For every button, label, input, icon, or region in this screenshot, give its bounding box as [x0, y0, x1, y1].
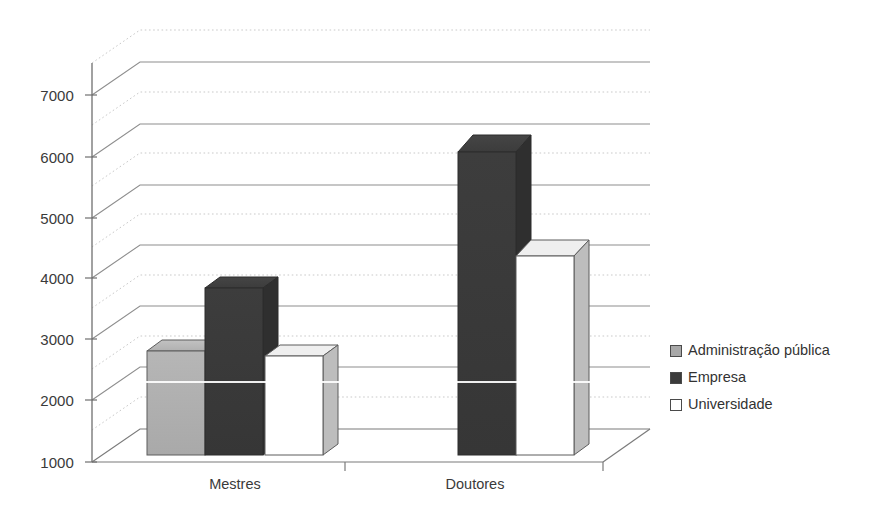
- legend-item-administracao-publica: Administração pública: [670, 337, 885, 364]
- y-tick-label: 3000: [12, 332, 74, 347]
- legend-item-empresa: Empresa: [670, 364, 885, 391]
- legend-item-universidade: Universidade: [670, 391, 885, 418]
- chart-legend: Administração pública Empresa Universida…: [670, 337, 885, 418]
- legend-label: Administração pública: [688, 343, 830, 358]
- legend-swatch-empresa-icon: [670, 372, 682, 384]
- x-axis-category-ticks: [345, 462, 603, 471]
- bar-doutores-universidade: [516, 240, 589, 455]
- chart-plot-area: [0, 0, 887, 512]
- y-tick-label: 6000: [12, 150, 74, 165]
- y-tick-label: 7000: [12, 88, 74, 103]
- bar-mestres-universidade: [265, 345, 338, 455]
- legend-label: Empresa: [688, 370, 746, 385]
- x-tick-label-doutores: Doutores: [415, 477, 535, 492]
- legend-swatch-universidade-icon: [670, 399, 682, 411]
- y-tick-label: 2000: [12, 393, 74, 408]
- legend-swatch-administracao-icon: [670, 345, 682, 357]
- y-tick-label: 1000: [12, 455, 74, 470]
- x-tick-label-mestres: Mestres: [175, 477, 295, 492]
- legend-label: Universidade: [688, 397, 773, 412]
- y-tick-label: 4000: [12, 271, 74, 286]
- chart-figure: 7000 6000 5000 4000 3000 2000 1000 Mestr…: [0, 0, 887, 512]
- y-tick-label: 5000: [12, 211, 74, 226]
- y-axis: [85, 63, 97, 462]
